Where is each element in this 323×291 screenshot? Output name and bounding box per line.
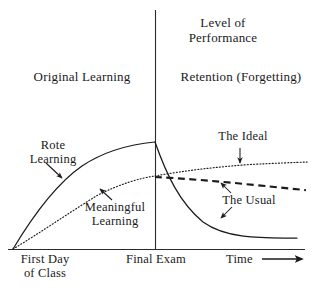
x-tick-label-final-exam: Final Exam <box>118 252 194 266</box>
curve-label-meaningful-learning: Meaningful Learning <box>72 200 158 228</box>
learning-retention-diagram: Level of Performance Original Learning R… <box>0 0 323 291</box>
the-ideal-curve <box>155 162 308 176</box>
curve-label-the-usual: The Usual <box>218 193 280 207</box>
the-usual-curve <box>155 177 306 190</box>
curve-label-rote-learning: Rote Learning <box>16 138 90 166</box>
region-label-retention: Retention (Forgetting) <box>162 70 320 85</box>
y-axis-label: Level of Performance <box>168 16 278 45</box>
x-axis-label-time: Time <box>226 252 266 266</box>
rote-forgetting-curve <box>155 142 297 238</box>
region-label-original-learning: Original Learning <box>18 70 146 85</box>
curve-label-the-ideal: The Ideal <box>212 129 274 143</box>
the-usual-arrow-solid <box>221 207 232 218</box>
x-tick-label-first-day-of-class: First Day of Class <box>6 252 84 280</box>
the-usual-arrow-dashed <box>221 183 231 193</box>
